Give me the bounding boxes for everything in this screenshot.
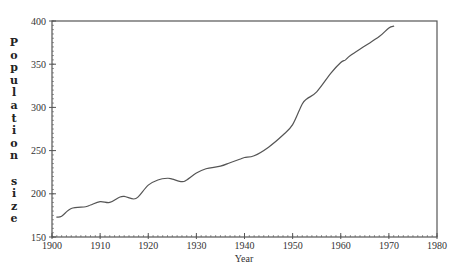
y-axis-title-letter: t bbox=[11, 112, 17, 125]
x-tick-label: 1900 bbox=[42, 240, 62, 251]
y-tick-label: 400 bbox=[31, 16, 46, 27]
y-tick-label: 200 bbox=[31, 188, 46, 199]
x-tick-label: 1920 bbox=[138, 240, 158, 251]
x-tick-label: 1910 bbox=[90, 240, 110, 251]
y-axis-title-letter: z bbox=[11, 200, 17, 213]
chart-canvas: Populationsize 150200250300350400 190019… bbox=[0, 0, 457, 272]
y-tick-label: 250 bbox=[31, 145, 46, 156]
y-axis-title-letter: a bbox=[10, 99, 17, 112]
y-axis-title: Populationsize bbox=[10, 36, 18, 225]
population-line-chart: Populationsize 150200250300350400 190019… bbox=[0, 0, 457, 272]
y-axis-title-letter: i bbox=[12, 187, 16, 200]
x-tick-label: 1930 bbox=[186, 240, 206, 251]
y-axis-title-letter: o bbox=[10, 49, 17, 62]
plot-frame bbox=[52, 21, 437, 237]
x-axis-title: Year bbox=[235, 253, 254, 264]
y-axis-title-letter: o bbox=[10, 137, 17, 150]
y-axis-title-letter: p bbox=[10, 61, 18, 74]
y-axis-title-letter: i bbox=[12, 124, 16, 137]
x-axis-ticks: 190019101920193019401950196019701980 bbox=[42, 233, 447, 251]
y-axis-title-letter: n bbox=[10, 149, 18, 162]
y-axis-title-letter: s bbox=[11, 175, 17, 188]
x-tick-label: 1960 bbox=[331, 240, 351, 251]
data-series bbox=[57, 26, 394, 217]
plot-border bbox=[52, 21, 437, 237]
x-tick-label: 1980 bbox=[427, 240, 447, 251]
population-line bbox=[57, 26, 394, 217]
y-tick-label: 350 bbox=[31, 59, 46, 70]
y-axis-title-letter: u bbox=[10, 74, 18, 87]
y-axis-title-letter: P bbox=[10, 36, 18, 49]
x-tick-label: 1940 bbox=[235, 240, 255, 251]
y-axis-title-letter: e bbox=[11, 212, 18, 225]
y-axis-title-letter: l bbox=[12, 86, 16, 99]
x-tick-label: 1970 bbox=[379, 240, 399, 251]
y-tick-label: 300 bbox=[31, 102, 46, 113]
x-tick-label: 1950 bbox=[283, 240, 303, 251]
